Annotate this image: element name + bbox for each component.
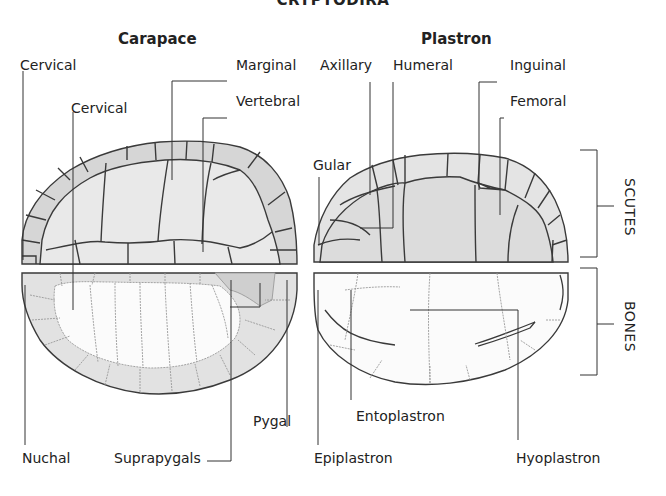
label-femoral: Femoral	[510, 93, 566, 109]
label-hyoplastron: Hyoplastron	[516, 450, 600, 466]
label-suprapygals: Suprapygals	[114, 450, 201, 466]
leader-lines	[23, 71, 614, 461]
carapace-scutes	[22, 141, 297, 264]
label-marginal: Marginal	[236, 57, 296, 73]
turtle-shell-diagram	[0, 0, 666, 496]
plastron-bones	[314, 273, 568, 385]
label-entoplastron: Entoplastron	[356, 408, 445, 424]
label-cervical-inner: Cervical	[71, 100, 128, 116]
label-bones: BONES	[622, 301, 638, 352]
label-vertebral: Vertebral	[236, 93, 300, 109]
label-scutes: SCUTES	[622, 178, 638, 236]
label-cervical-top: Cervical	[20, 57, 77, 73]
label-inguinal: Inguinal	[510, 57, 566, 73]
label-nuchal: Nuchal	[22, 450, 70, 466]
plastron-scutes	[314, 153, 568, 262]
label-axillary: Axillary	[320, 57, 372, 73]
label-pygal: Pygal	[253, 413, 291, 429]
carapace-bones	[22, 273, 297, 394]
label-epiplastron: Epiplastron	[314, 450, 393, 466]
label-gular: Gular	[313, 157, 351, 173]
label-humeral: Humeral	[393, 57, 453, 73]
